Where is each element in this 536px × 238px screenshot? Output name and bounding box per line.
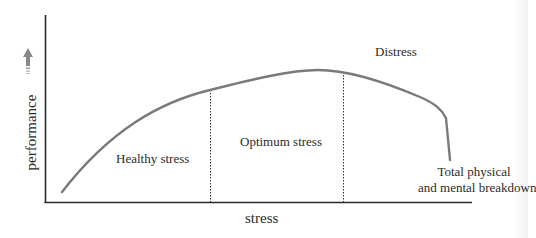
region-label-distress: Distress xyxy=(375,44,417,60)
breakdown-annotation-line1: Total physical xyxy=(418,164,530,180)
up-arrow-icon xyxy=(23,48,33,74)
region-label-healthy-stress: Healthy stress xyxy=(116,151,189,167)
x-axis-label: stress xyxy=(245,210,278,227)
performance-curve xyxy=(62,70,450,192)
breakdown-annotation-line2: and mental breakdown xyxy=(418,180,530,196)
region-label-optimum-stress: Optimum stress xyxy=(240,134,322,150)
y-axis-label: performance xyxy=(23,88,40,178)
breakdown-annotation: Total physical and mental breakdown xyxy=(418,164,530,196)
